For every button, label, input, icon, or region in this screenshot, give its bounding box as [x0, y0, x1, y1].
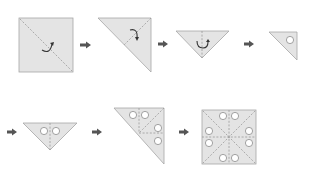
- step-5-triangle: [23, 123, 77, 150]
- folding-diagram: [0, 0, 311, 179]
- step-6-triangle: [114, 108, 164, 164]
- step-7-square: [202, 110, 256, 164]
- step-2-triangle: [98, 18, 151, 72]
- punched-hole: [40, 127, 47, 134]
- punched-hole: [219, 154, 226, 161]
- punched-hole: [52, 127, 59, 134]
- punched-hole: [154, 137, 161, 144]
- step-1-square: [19, 18, 73, 72]
- punched-hole: [245, 139, 252, 146]
- punched-hole: [205, 127, 212, 134]
- step-4-triangle: [269, 32, 297, 60]
- punched-hole: [231, 112, 238, 119]
- punched-hole: [141, 111, 148, 118]
- next-step-arrow-icon: [7, 129, 17, 136]
- punched-hole: [154, 124, 161, 131]
- punched-hole: [205, 139, 212, 146]
- punched-hole: [286, 36, 293, 43]
- next-step-arrow-icon: [92, 129, 102, 136]
- next-step-arrow-icon: [179, 129, 189, 136]
- next-step-arrow-icon: [244, 41, 254, 48]
- punched-hole: [129, 111, 136, 118]
- next-step-arrow-icon: [158, 41, 168, 48]
- next-step-arrow-icon: [80, 42, 91, 49]
- punched-hole: [231, 154, 238, 161]
- punched-hole: [245, 127, 252, 134]
- punched-hole: [219, 112, 226, 119]
- step-3-triangle: [176, 31, 229, 58]
